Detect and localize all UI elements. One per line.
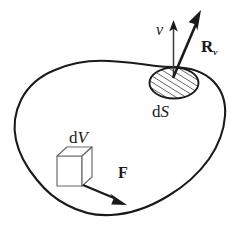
reaction-vector-base: R	[201, 37, 213, 56]
surface-element-label: dS	[152, 103, 169, 120]
reaction-vector-label: Rν	[201, 38, 217, 57]
volume-element-prefix: d	[69, 128, 78, 147]
volume-element-label: dV	[69, 129, 88, 146]
surface-element-prefix: d	[152, 102, 161, 121]
normal-vector-label: ν	[156, 22, 163, 38]
volume-element-symbol: V	[78, 128, 88, 147]
volume-element-cube	[57, 147, 92, 186]
force-vector-label: F	[118, 165, 128, 181]
reaction-vector-subscript: ν	[213, 47, 217, 57]
figure-canvas: ν Rν dS dV F	[0, 0, 239, 243]
surface-element-symbol: S	[161, 102, 170, 121]
cube-front-face	[57, 156, 82, 186]
